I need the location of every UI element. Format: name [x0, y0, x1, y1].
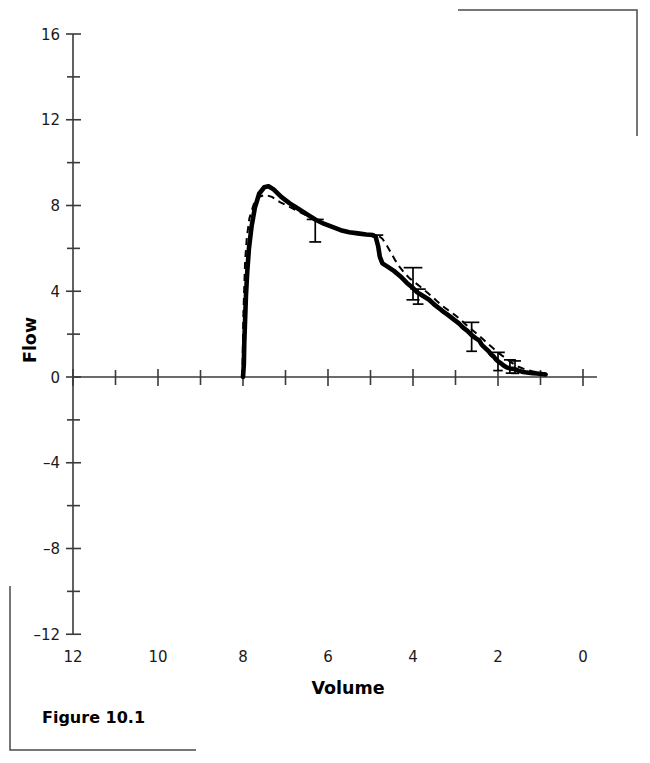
series-dashed-curve	[242, 195, 546, 377]
figure-container: 1612840–4–8–12 121086420 Flow Volume Fig…	[0, 0, 650, 763]
y-tick-label: 4	[50, 283, 60, 301]
x-tick-label: 12	[63, 648, 82, 666]
y-axis-title: Flow	[20, 317, 40, 363]
y-tick-label: 16	[41, 26, 60, 44]
solid-flow-curve	[243, 186, 546, 377]
x-tick-label: 10	[148, 648, 167, 666]
x-axis-tick-labels: 121086420	[63, 648, 587, 666]
axes-group	[73, 34, 597, 634]
figure-caption: Figure 10.1	[42, 708, 145, 727]
x-tick-label: 6	[323, 648, 333, 666]
x-tick-label: 4	[408, 648, 418, 666]
top-right-corner-bracket	[458, 10, 637, 136]
y-tick-label: –4	[43, 454, 60, 472]
series-solid-curve	[243, 186, 546, 377]
y-tick-label: –8	[43, 540, 60, 558]
y-tick-label: 12	[41, 111, 60, 129]
y-tick-label: –12	[33, 626, 60, 644]
x-axis-title: Volume	[311, 678, 384, 698]
y-tick-label: 8	[50, 197, 60, 215]
x-tick-label: 8	[238, 648, 248, 666]
y-tick-label: 0	[50, 369, 60, 387]
flow-volume-chart: 1612840–4–8–12 121086420 Flow Volume Fig…	[0, 0, 650, 763]
x-tick-label: 2	[493, 648, 503, 666]
dashed-flow-curve	[242, 195, 546, 377]
x-tick-label: 0	[578, 648, 588, 666]
